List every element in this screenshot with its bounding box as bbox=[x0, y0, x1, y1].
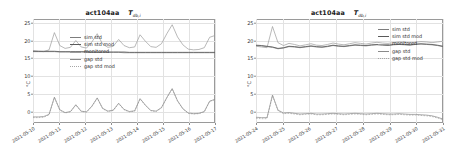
panel-left-xtick-5: 2021-05-15 bbox=[141, 126, 165, 144]
legend-swatch-sim-std-mod-icon bbox=[378, 36, 389, 37]
legend-item-sim-std-mod: sim std mod bbox=[70, 41, 115, 48]
legend-label-gap-std-mod: gap std mod bbox=[84, 63, 115, 70]
panel-right-xtick-2: 2021-05-26 bbox=[288, 126, 312, 144]
legend-item-monitored: monitored bbox=[70, 48, 115, 55]
panel-right-xtick-4: 2021-05-28 bbox=[341, 126, 365, 144]
panel-left-xtick-0: 2021-05-10 bbox=[11, 126, 35, 144]
legend-item-sim-std-mod: sim std mod bbox=[378, 33, 423, 40]
legend-item-gap-std: gap std bbox=[378, 48, 423, 55]
legend-label-sim-std-mod: sim std mod bbox=[392, 33, 422, 40]
panel-right-xtick-5: 2021-05-29 bbox=[368, 126, 392, 144]
panel-right: act104aaTdb,i °C 0 5 10 15 20 25 bbox=[226, 0, 451, 151]
figure-two-panel-timeseries: act104aaTdb,i °C 0 5 10 15 20 25 bbox=[0, 0, 451, 151]
legend-label-sim-std: sim std bbox=[84, 34, 102, 41]
legend-item-gap-std: gap std bbox=[70, 56, 115, 63]
panel-right-xtick-3: 2021-05-27 bbox=[314, 126, 338, 144]
panel-right-xtick-1: 2021-05-25 bbox=[261, 126, 285, 144]
panel-left-ytick-4: 20 bbox=[24, 38, 30, 44]
legend-swatch-sim-std-icon bbox=[70, 37, 81, 38]
legend-swatch-monitored-icon bbox=[70, 52, 81, 53]
panel-right-xtick-0: 2021-05-24 bbox=[234, 126, 258, 144]
panel-right-xtick-6: 2021-05-30 bbox=[394, 126, 418, 144]
panel-right-title: act104aaTdb,i bbox=[226, 9, 451, 18]
series-line-gap-std-mod bbox=[33, 89, 215, 118]
panel-right-ytick-4: 20 bbox=[247, 38, 253, 44]
legend-label-sim-std-mod: sim std mod bbox=[84, 41, 114, 48]
panel-left-xtick-3: 2021-05-13 bbox=[89, 126, 113, 144]
legend-item-gap-std-mod: gap std mod bbox=[70, 63, 115, 70]
panel-right-ytick-2: 10 bbox=[247, 73, 253, 79]
panel-right-legend: sim std sim std mod monitored gap std ga… bbox=[378, 26, 423, 62]
panel-left-title: act104aaTdb,i bbox=[0, 9, 226, 18]
series-line-monitored bbox=[33, 25, 215, 52]
panel-left-xtick-1: 2021-05-11 bbox=[37, 126, 61, 144]
panel-right-ytick-1: 5 bbox=[250, 91, 253, 97]
legend-swatch-gap-std-icon bbox=[70, 59, 81, 60]
legend-swatch-gap-std-icon bbox=[378, 51, 389, 52]
panel-left-xtick-7: 2021-05-17 bbox=[193, 126, 217, 144]
panel-left-ylabel: °C bbox=[25, 81, 31, 87]
legend-item-gap-std-mod: gap std mod bbox=[378, 55, 423, 62]
series-line-gap-std-mod bbox=[256, 96, 443, 120]
legend-label-monitored: monitored bbox=[392, 40, 417, 47]
panel-left-ytick-0: 0 bbox=[27, 109, 30, 115]
legend-swatch-sim-std-mod-icon bbox=[70, 44, 81, 45]
panel-right-ytick-5: 25 bbox=[247, 20, 253, 26]
panel-right-xtick-7: 2021-05-31 bbox=[421, 126, 445, 144]
panel-left-legend: sim std sim std mod monitored gap std ga… bbox=[70, 34, 115, 70]
panel-right-ytick-0: 0 bbox=[250, 109, 253, 115]
legend-swatch-gap-std-mod-icon bbox=[70, 66, 81, 67]
legend-label-gap-std: gap std bbox=[84, 56, 102, 63]
panel-left-ytick-3: 15 bbox=[24, 55, 30, 61]
panel-left-ytick-2: 10 bbox=[24, 73, 30, 79]
panel-left-plot-area: °C 0 5 10 15 20 25 bbox=[33, 19, 215, 123]
legend-label-monitored: monitored bbox=[84, 48, 109, 55]
panel-right-ytick-3: 15 bbox=[247, 55, 253, 61]
legend-swatch-sim-std-icon bbox=[378, 29, 389, 30]
panel-right-ylabel: °C bbox=[246, 81, 252, 87]
legend-swatch-monitored-icon bbox=[378, 44, 389, 45]
legend-label-gap-std: gap std bbox=[392, 48, 410, 55]
legend-label-sim-std: sim std bbox=[392, 26, 410, 33]
legend-item-sim-std: sim std bbox=[70, 34, 115, 41]
legend-label-gap-std-mod: gap std mod bbox=[392, 55, 423, 62]
panel-left-ytick-5: 25 bbox=[24, 20, 30, 26]
panel-right-title-main: act104aa bbox=[311, 9, 345, 17]
panel-left: act104aaTdb,i °C 0 5 10 15 20 25 bbox=[0, 0, 226, 151]
series-line-gap-std bbox=[33, 89, 215, 117]
panel-left-xtick-2: 2021-05-12 bbox=[63, 126, 87, 144]
panel-left-series-layer bbox=[33, 19, 215, 123]
legend-swatch-gap-std-mod-icon bbox=[378, 58, 389, 59]
legend-item-sim-std: sim std bbox=[378, 26, 423, 33]
panel-left-xtick-6: 2021-05-16 bbox=[167, 126, 191, 144]
legend-item-monitored: monitored bbox=[378, 40, 423, 47]
panel-left-ytick-1: 5 bbox=[27, 91, 30, 97]
panel-right-title-subscript: db,i bbox=[358, 13, 366, 18]
panel-left-xtick-4: 2021-05-14 bbox=[115, 126, 139, 144]
panel-left-title-main: act104aa bbox=[85, 9, 119, 17]
panel-left-title-subscript: db,i bbox=[133, 13, 141, 18]
